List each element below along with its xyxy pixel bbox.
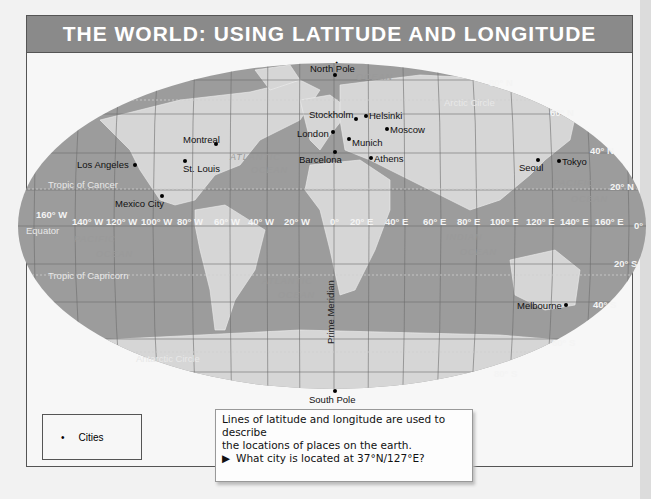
city-label: St. Louis	[183, 163, 220, 174]
longitude-label: 80° E	[457, 216, 480, 227]
city-label: Helsinki	[369, 110, 402, 121]
south-pole-label: South Pole	[309, 394, 355, 405]
longitude-label: 20° E	[350, 216, 373, 227]
latitude-label: 80° N	[489, 77, 513, 88]
latitude-label: 60° N	[550, 107, 574, 118]
city-label: Mexico City	[115, 198, 164, 209]
longitude-label: 60° W	[214, 216, 240, 227]
city-label: Moscow	[390, 124, 425, 135]
latitude-label: 20° S	[614, 258, 637, 269]
city-dot-icon	[564, 303, 568, 307]
city-label: London	[297, 128, 329, 139]
title-bar: THE WORLD: USING LATITUDE AND LONGITUDE	[26, 15, 633, 53]
longitude-label: 160° W	[36, 209, 67, 220]
ocean-label: PACIFIC	[553, 178, 595, 188]
city-label: Munich	[352, 137, 383, 148]
ocean-label: OCEAN	[251, 165, 288, 175]
longitude-label: 0°	[330, 216, 339, 227]
triangle-right-icon: ▶	[222, 452, 230, 465]
north-pole-label: North Pole	[310, 63, 355, 74]
longitude-label: 40° E	[385, 216, 408, 227]
ocean-label: OCEAN	[356, 72, 393, 82]
city-dot-icon	[331, 130, 335, 134]
caption-line-1: Lines of latitude and longitude are used…	[222, 413, 466, 439]
ocean-label: ATLANTIC	[262, 276, 313, 286]
longitude-label: 40° W	[248, 216, 274, 227]
longitude-label: 160° E	[595, 216, 624, 227]
city-dot-icon	[385, 127, 389, 131]
city-dot-icon	[557, 159, 561, 163]
city-dot-icon	[364, 114, 368, 118]
latitude-label: 40° S	[593, 299, 616, 310]
latitude-label: 0°	[634, 220, 643, 231]
city-label: Montreal	[183, 134, 220, 145]
city-label: Melbourne	[517, 300, 562, 311]
caption-box: Lines of latitude and longitude are used…	[215, 409, 473, 482]
city-dot-icon	[354, 117, 358, 121]
legend-label: Cities	[79, 432, 104, 443]
ocean-label: PACIFIC	[74, 234, 116, 244]
longitude-label: 140° E	[560, 216, 589, 227]
prime-meridian-label: Prime Meridian	[325, 280, 336, 344]
latitude-label: 40° N	[590, 145, 614, 156]
city-dot-icon	[347, 137, 351, 141]
ocean-label: OCEAN	[571, 194, 608, 204]
city-dot-icon	[133, 163, 137, 167]
longitude-label: 120° E	[526, 216, 555, 227]
city-label: Athens	[374, 153, 404, 164]
city-label: Seoul	[519, 162, 543, 173]
ocean-label: OCEAN	[278, 290, 315, 300]
ocean-label: OCEAN	[460, 247, 497, 257]
legend: • Cities	[42, 414, 142, 460]
longitude-label: 120° W	[106, 216, 137, 227]
city-dot-icon: •	[61, 432, 65, 443]
map-title: THE WORLD: USING LATITUDE AND LONGITUDE	[63, 22, 597, 46]
line-label: Arctic Circle	[444, 97, 495, 108]
longitude-label: 100° W	[141, 216, 172, 227]
longitude-label: 80° W	[177, 216, 203, 227]
city-label: Stockholm	[309, 109, 353, 120]
line-label: Equator	[26, 225, 59, 236]
line-label: Antarctic Circle	[136, 353, 200, 364]
latitude-label: 60° S	[552, 337, 575, 348]
latitude-label: 80° S	[494, 368, 517, 379]
city-label: Los Angeles	[77, 159, 129, 170]
longitude-label: 20° W	[284, 216, 310, 227]
longitude-label: 100° E	[490, 216, 519, 227]
longitude-label: 140° W	[72, 216, 103, 227]
line-label: Tropic of Cancer	[48, 179, 118, 190]
latitude-label: 20° N	[610, 181, 634, 192]
city-dot-icon	[369, 156, 373, 160]
ocean-label: INDIAN	[446, 232, 483, 242]
ocean-label: ATLANTIC	[230, 152, 281, 162]
city-label: Barcelona	[299, 154, 342, 165]
caption-line-2: the locations of places on the earth.	[222, 439, 466, 452]
longitude-label: 60° E	[423, 216, 446, 227]
line-label: Tropic of Capricorn	[48, 270, 128, 281]
ocean-label: OCEAN	[96, 249, 133, 259]
question-text: What city is located at 37°N/127°E?	[236, 452, 425, 465]
city-label: Tokyo	[562, 156, 587, 167]
